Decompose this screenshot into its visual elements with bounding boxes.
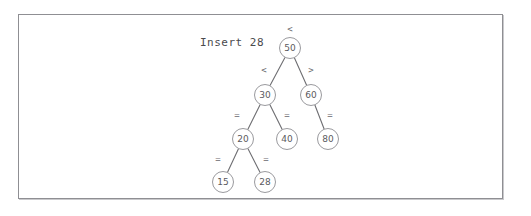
edge-comparison-label: = <box>215 154 220 164</box>
tree-node-label: 40 <box>281 134 292 144</box>
tree-node-label: 50 <box>284 43 295 53</box>
tree-node-label: 15 <box>217 177 228 187</box>
tree-node-60: 60 <box>300 84 322 106</box>
root-comparison-label: < <box>287 24 292 34</box>
tree-node-80: 80 <box>317 128 339 150</box>
edge-comparison-label: = <box>234 110 239 120</box>
figure-caption: Insert 28 <box>200 36 264 49</box>
tree-node-label: 80 <box>322 134 333 144</box>
tree-node-label: 60 <box>305 90 316 100</box>
tree-node-label: 20 <box>237 134 248 144</box>
tree-node-15: 15 <box>212 171 234 193</box>
tree-node-20: 20 <box>232 128 254 150</box>
tree-node-28: 28 <box>254 171 276 193</box>
tree-node-label: 28 <box>259 177 270 187</box>
tree-node-40: 40 <box>276 128 298 150</box>
tree-node-30: 30 <box>254 84 276 106</box>
edge-comparison-label: < <box>261 65 266 75</box>
edge-comparison-label: = <box>327 110 332 120</box>
edge-comparison-label: > <box>308 65 313 75</box>
edge-comparison-label: = <box>263 154 268 164</box>
tree-node-50: 50 <box>279 37 301 59</box>
edge-comparison-label: = <box>284 110 289 120</box>
figure-screenshot: 5030602040801528 Insert 28<>=====< <box>0 0 531 216</box>
tree-node-label: 30 <box>259 90 270 100</box>
